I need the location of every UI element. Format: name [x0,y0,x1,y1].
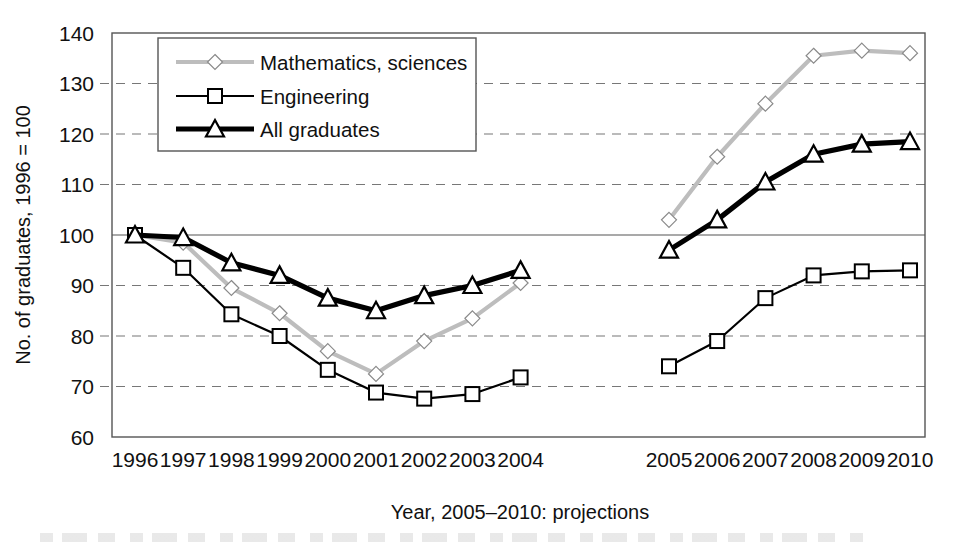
chart-figure: 14013012011010090807060 1996199719981999… [0,0,980,550]
y-tick-110: 110 [61,173,94,196]
series-engineering [128,228,917,406]
data-point [855,264,869,278]
y-axis-tick-labels: 14013012011010090807060 [59,22,94,449]
data-point [903,46,918,61]
x-tick-2010: 2010 [887,448,934,471]
x-tick-2005: 2005 [646,448,693,471]
legend-label: Mathematics, sciences [260,51,467,74]
x-tick-2009: 2009 [838,448,885,471]
data-point [369,386,383,400]
series-all-graduates [126,133,919,319]
x-tick-1996: 1996 [112,448,159,471]
legend-label: All graduates [260,118,380,141]
x-tick-2001: 2001 [353,448,400,471]
y-tick-120: 120 [59,123,94,146]
data-point [512,261,530,278]
data-point [854,43,869,58]
data-point [321,363,335,377]
x-axis-tick-labels: 1996199719981999200020012002200320042005… [112,448,934,471]
x-axis-title: Year, 2005–2010: projections [391,501,649,523]
data-point [710,334,724,348]
x-tick-2003: 2003 [449,448,496,471]
x-tick-2002: 2002 [401,448,448,471]
page-scan-artifact [40,533,870,542]
x-tick-2000: 2000 [304,448,351,471]
y-tick-80: 80 [71,325,94,348]
y-tick-130: 130 [59,72,94,95]
data-point [758,291,772,305]
data-point [176,261,190,275]
data-point [514,370,528,384]
data-point [224,307,238,321]
x-tick-1998: 1998 [208,448,255,471]
x-tick-2006: 2006 [694,448,741,471]
data-point [417,392,431,406]
data-point [465,387,479,401]
x-tick-1997: 1997 [160,448,207,471]
x-tick-1999: 1999 [256,448,303,471]
y-tick-90: 90 [71,274,94,297]
y-tick-60: 60 [71,426,94,449]
line-chart: 14013012011010090807060 1996199719981999… [0,0,980,550]
x-tick-2008: 2008 [790,448,837,471]
legend-label: Engineering [260,85,369,108]
x-tick-2007: 2007 [742,448,789,471]
chart-legend: Mathematics, sciencesEngineeringAll grad… [158,38,476,151]
x-tick-2004: 2004 [497,448,544,471]
y-tick-100: 100 [59,224,94,247]
data-point [807,268,821,282]
y-tick-140: 140 [59,22,94,45]
legend-marker-square-icon [208,89,222,103]
data-point [903,263,917,277]
y-axis-title: No. of graduates, 1996 = 100 [12,105,34,365]
data-point [662,359,676,373]
y-tick-70: 70 [71,375,94,398]
data-point [273,329,287,343]
